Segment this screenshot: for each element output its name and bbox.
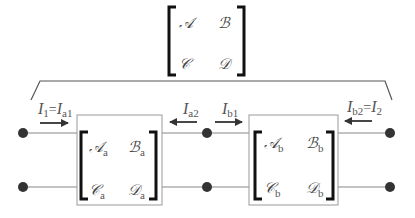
- node-in-bottom: [18, 182, 28, 192]
- network-b-box: [249, 115, 338, 205]
- current-i2: Ib2=I2: [345, 98, 382, 121]
- current-ib1-label: Ib1: [221, 100, 238, 119]
- network-a: 𝒜a ℬa 𝒞a 𝒟a: [77, 115, 162, 205]
- network-b: 𝒜b ℬb 𝒞b 𝒟b: [249, 115, 338, 205]
- right-bracket: [237, 7, 244, 75]
- node-in-top: [18, 128, 28, 138]
- current-i1-label: I1=Ia1: [37, 100, 72, 119]
- matrix-entry-a: 𝒜: [179, 14, 198, 32]
- node-out-top: [385, 128, 395, 138]
- matrix-entry-c: 𝒞: [179, 55, 194, 73]
- node-mid-bottom: [202, 182, 212, 192]
- current-ib1: Ib1: [215, 100, 242, 122]
- current-i2-label: Ib2=I2: [346, 98, 382, 117]
- overall-brace: [31, 81, 392, 100]
- current-ia2-label: Ia2: [182, 100, 199, 119]
- cascade-diagram: 𝒜 ℬ 𝒞 𝒟 𝒜a ℬa 𝒞a 𝒟a 𝒜b: [0, 0, 415, 218]
- matrix-entry-b: ℬ: [218, 14, 231, 32]
- overall-matrix: 𝒜 ℬ 𝒞 𝒟: [169, 7, 244, 75]
- node-out-bottom: [385, 182, 395, 192]
- node-mid-top: [202, 128, 212, 138]
- current-ia2: Ia2: [170, 100, 199, 122]
- left-bracket: [169, 7, 176, 75]
- matrix-entry-d: 𝒟: [218, 55, 233, 73]
- current-i1: I1=Ia1: [37, 100, 72, 123]
